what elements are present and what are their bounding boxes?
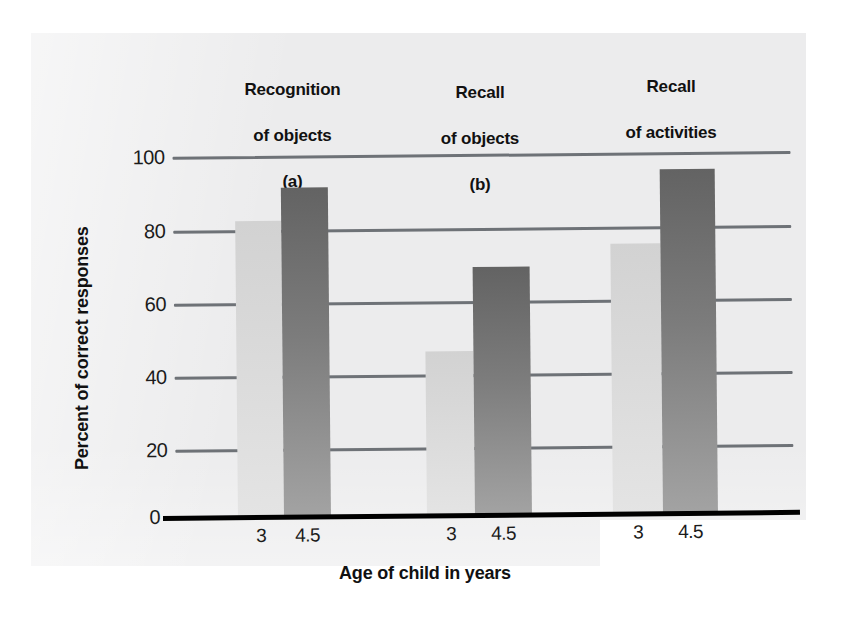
bar-c-age4-5 <box>660 169 718 515</box>
xtick-label-c-3: 3 <box>613 521 663 543</box>
xtick-label-b-3: 3 <box>427 523 475 545</box>
ytick-label-0: 0 <box>110 506 160 529</box>
figure-root: Recognition of objects (a) Recall of obj… <box>0 0 856 618</box>
ytick-label-20: 20 <box>109 439 167 463</box>
bar-a-age3 <box>235 221 284 518</box>
xtick-label-a-4-5: 4.5 <box>284 524 331 546</box>
y-axis-title: Percent of correct responses <box>72 227 93 471</box>
xtick-label-a-3: 3 <box>238 525 284 547</box>
plot-tilt-wrapper: 100 80 60 40 20 0 3 4.5 3 4.5 3 4.5 <box>0 0 856 618</box>
ytick-label-60: 60 <box>108 293 166 317</box>
ytick-label-100: 100 <box>106 146 164 170</box>
bar-b-age3 <box>425 351 475 516</box>
ytick-label-80: 80 <box>107 220 165 244</box>
gridline-100 <box>173 151 791 160</box>
xtick-label-b-4-5: 4.5 <box>475 522 532 545</box>
bar-c-age3 <box>610 243 663 514</box>
bar-chart: Recognition of objects (a) Recall of obj… <box>0 0 856 618</box>
x-axis-title: Age of child in years <box>250 563 600 584</box>
bar-b-age4-5 <box>473 266 532 516</box>
ytick-label-40: 40 <box>109 366 167 390</box>
bar-a-age4-5 <box>281 187 331 517</box>
xtick-label-c-4-5: 4.5 <box>663 521 718 544</box>
